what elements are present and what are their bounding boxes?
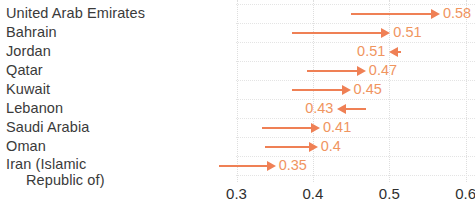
chart-row: Kuwait0.45 [0,80,475,99]
arrow-head-right-icon [311,123,320,133]
arrow-line [292,89,342,91]
x-tick-label: 0.5 [379,185,400,202]
category-label: United Arab Emirates [6,4,230,23]
chart-row: Oman0.4 [0,137,475,156]
category-label: Bahrain [6,23,230,42]
category-label: Oman [6,137,230,156]
horizontal-arrow-chart: United Arab Emirates0.58Bahrain0.51Jorda… [0,0,475,215]
chart-row: Bahrain0.51 [0,23,475,42]
arrow-line [265,146,310,148]
arrow-head-right-icon [431,9,440,19]
value-label: 0.45 [354,80,382,99]
value-label: 0.51 [357,42,385,61]
category-label: Qatar [6,61,230,80]
value-label: 0.47 [369,61,397,80]
arrow-head-left-icon [389,47,398,57]
category-label: Lebanon [6,99,230,118]
arrow-head-left-icon [337,104,346,114]
chart-row: Iran (IslamicRepublic of)0.35 [0,156,475,175]
category-label: Saudi Arabia [6,118,230,137]
x-axis: 0.30.40.50.6 [0,182,475,215]
category-label: Jordan [6,42,230,61]
arrow-line [344,108,366,110]
x-tick-label: 0.4 [302,185,323,202]
arrow-head-right-icon [357,66,366,76]
x-tick-label: 0.3 [226,185,247,202]
arrow-line [307,70,358,72]
chart-row: United Arab Emirates0.58 [0,4,475,23]
arrow-head-right-icon [267,161,276,171]
value-label: 0.35 [279,156,307,175]
chart-row: Saudi Arabia0.41 [0,118,475,137]
arrow-line [262,127,312,129]
arrow-head-right-icon [309,142,318,152]
arrow-line [292,32,382,34]
arrow-head-right-icon [381,28,390,38]
plot-area: United Arab Emirates0.58Bahrain0.51Jorda… [0,0,475,182]
value-label: 0.41 [323,118,351,137]
chart-row: Qatar0.47 [0,61,475,80]
arrow-line [219,165,268,167]
value-label: 0.58 [443,4,471,23]
category-label: Kuwait [6,80,230,99]
arrow-line [351,13,432,15]
category-label-line1: Iran (Islamic [6,156,86,172]
chart-row: Lebanon0.43 [0,99,475,118]
value-label: 0.43 [305,99,333,118]
x-tick-label: 0.6 [455,185,475,202]
horizontal-gridline [236,175,475,176]
value-label: 0.4 [321,137,341,156]
value-label: 0.51 [393,23,421,42]
chart-row: Jordan0.51 [0,42,475,61]
arrow-head-right-icon [342,85,351,95]
